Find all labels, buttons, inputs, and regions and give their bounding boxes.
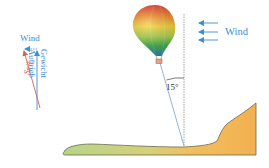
balloon-basket bbox=[156, 59, 162, 64]
weight-force-label: Gewicht bbox=[40, 49, 49, 78]
rope-line bbox=[160, 63, 184, 146]
lift-force-label: Auftrieb bbox=[28, 49, 37, 78]
angle-arc bbox=[167, 78, 185, 80]
angle-label: 15° bbox=[166, 83, 179, 92]
wind-label: Wind bbox=[225, 27, 248, 38]
wind-vector-label: Wind bbox=[20, 34, 40, 43]
terrain bbox=[63, 103, 256, 155]
wind-arrows bbox=[199, 23, 218, 40]
hot-air-balloon bbox=[133, 5, 175, 64]
